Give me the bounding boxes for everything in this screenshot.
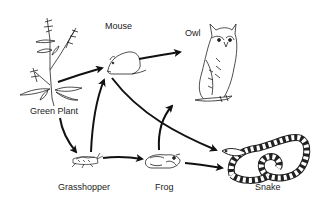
- food-web-diagram: Mouse Owl Green Plant Grasshopper Frog S…: [0, 0, 324, 208]
- arrows: [58, 52, 222, 168]
- green-plant-icon: [20, 18, 82, 106]
- arrow-mouse-to-owl: [139, 52, 180, 59]
- mouse-label: Mouse: [105, 21, 132, 31]
- snake-label: Snake: [255, 182, 281, 192]
- arrow-plant-to-grasshopper: [60, 118, 76, 152]
- grasshopper-label: Grasshopper: [58, 182, 110, 192]
- arrow-grasshopper-to-mouse: [91, 80, 104, 152]
- grasshopper-icon: [72, 153, 103, 168]
- arrow-plant-to-mouse: [58, 68, 102, 82]
- green-plant-label: Green Plant: [30, 106, 78, 116]
- diagram-canvas: [0, 0, 324, 208]
- owl-label: Owl: [185, 28, 201, 38]
- arrow-frog-to-snake: [185, 163, 222, 168]
- mouse-icon: [107, 52, 146, 74]
- frog-label: Frog: [155, 182, 174, 192]
- snake-icon: [222, 137, 307, 180]
- owl-icon: [195, 24, 237, 102]
- frog-icon: [145, 154, 180, 168]
- arrow-grasshopper-to-frog: [103, 157, 142, 159]
